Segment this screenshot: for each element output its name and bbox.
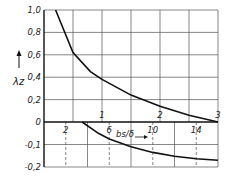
- x-axis-label-lower: bs/δ: [116, 129, 148, 139]
- svg-text:-0,2: -0,2: [24, 162, 41, 172]
- svg-text:0,4: 0,4: [27, 72, 41, 82]
- chart: 1,00,80,60,40,20-0,1-0,2123261014 λz bs/…: [0, 0, 226, 184]
- svg-text:-0,1: -0,1: [24, 140, 41, 150]
- svg-text:3: 3: [215, 110, 220, 120]
- svg-text:14: 14: [191, 125, 202, 135]
- tick-labels: 1,00,80,60,40,20-0,1-0,2123261014: [24, 5, 220, 172]
- svg-text:1,0: 1,0: [27, 5, 41, 15]
- svg-text:λz: λz: [12, 76, 25, 87]
- svg-text:bs/δ: bs/δ: [116, 129, 134, 139]
- svg-text:10: 10: [147, 125, 158, 135]
- svg-text:0,6: 0,6: [27, 50, 41, 60]
- grid: [44, 10, 218, 167]
- svg-text:0,2: 0,2: [27, 95, 41, 105]
- svg-text:0: 0: [36, 117, 41, 127]
- svg-text:0,8: 0,8: [27, 27, 41, 37]
- svg-text:1: 1: [99, 110, 104, 120]
- svg-text:2: 2: [63, 125, 68, 135]
- svg-text:6: 6: [107, 125, 113, 135]
- upper-curve: [56, 10, 218, 122]
- svg-text:2: 2: [157, 110, 162, 120]
- y-axis-label: λz: [12, 50, 25, 87]
